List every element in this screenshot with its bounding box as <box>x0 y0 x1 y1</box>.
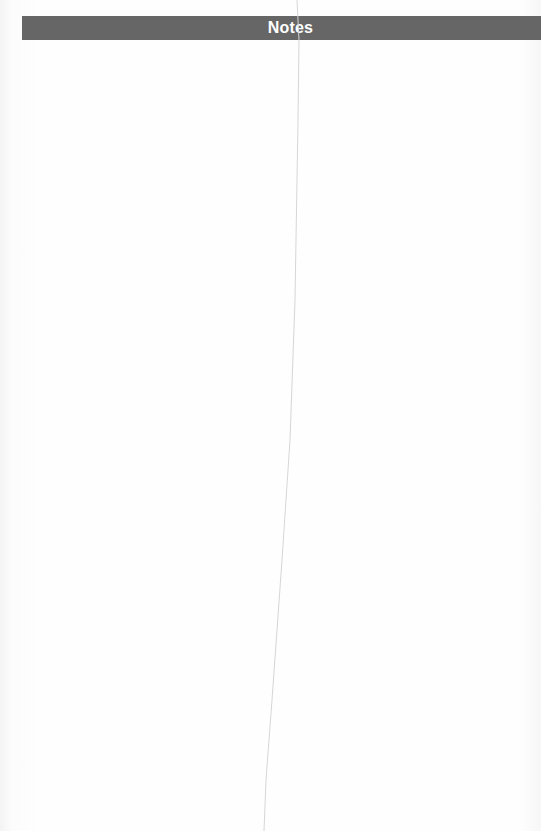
notes-header-bar: Notes <box>22 16 541 40</box>
notes-title: Notes <box>268 19 313 37</box>
notes-page: Notes <box>0 0 541 831</box>
notes-body-area <box>22 44 541 824</box>
